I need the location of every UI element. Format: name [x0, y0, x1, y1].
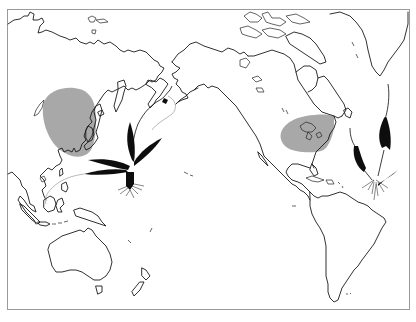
- canadian-arctic-2: [262, 12, 286, 26]
- lesser-antilles: [338, 182, 343, 188]
- hudson-bay-coast: [248, 50, 342, 118]
- new-zealand-south: [132, 282, 144, 296]
- pacific-islet-1: [128, 240, 131, 243]
- baffin-island: [286, 32, 326, 64]
- arctic-small-islands: [252, 76, 264, 92]
- hispaniola: [326, 180, 334, 184]
- yamal-peninsula: [34, 100, 44, 116]
- labrador-coast: [318, 76, 346, 116]
- tasmania: [96, 286, 102, 294]
- lesser-sunda: [52, 221, 68, 224]
- alaska-west: [172, 62, 188, 104]
- lake-winnipeg-dots: [282, 108, 288, 114]
- canadian-arctic-4: [240, 26, 262, 38]
- taiwan: [60, 168, 63, 176]
- sulawesi: [56, 198, 64, 212]
- cuba: [306, 176, 324, 182]
- south-america: [310, 192, 386, 302]
- hudson-bay-inner: [296, 66, 318, 92]
- canadian-arctic-1: [244, 12, 262, 22]
- arctic-island-2: [96, 19, 108, 23]
- pacific-islet-2: [150, 228, 152, 232]
- map-frame: [0, 0, 416, 322]
- canadian-arctic-3: [286, 14, 310, 24]
- indochina-coast: [8, 172, 36, 224]
- victoria-island: [240, 58, 250, 68]
- new-guinea: [74, 208, 106, 226]
- greenland: [330, 12, 408, 76]
- canadian-arctic-5: [262, 28, 286, 38]
- kamchatka: [146, 78, 168, 108]
- sakhalin: [114, 80, 126, 112]
- american-plant-illustration: [350, 84, 398, 200]
- pacific-islet-3: [184, 172, 193, 176]
- australia: [48, 228, 112, 280]
- arctic-island-3: [92, 30, 96, 34]
- falklands: [346, 293, 351, 294]
- siberia-coast: [8, 12, 164, 100]
- arctic-island-1: [88, 16, 96, 22]
- new-zealand-north: [142, 268, 150, 280]
- philippines: [62, 182, 68, 192]
- florida: [310, 164, 318, 176]
- east-asia-range: [43, 88, 96, 157]
- newfoundland: [344, 108, 352, 118]
- alaska-north-coast: [172, 42, 248, 62]
- map-border: [8, 10, 410, 310]
- greenland-west-islet: [352, 42, 358, 58]
